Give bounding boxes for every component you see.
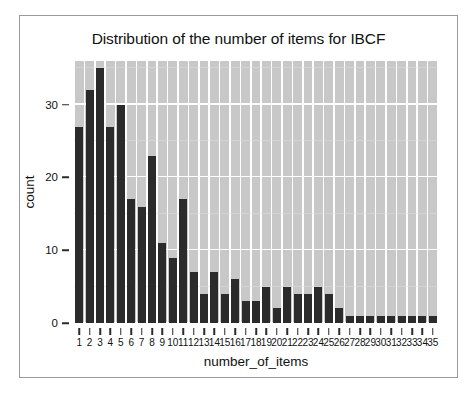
- figure-frame: Distribution of the number of items for …: [19, 15, 458, 378]
- bar: [335, 308, 343, 323]
- x-tick-mark: [401, 328, 403, 335]
- bar: [408, 316, 416, 323]
- x-tick-mark: [255, 328, 257, 335]
- y-tick-mark: [62, 249, 69, 251]
- x-tick-label: 5: [118, 337, 124, 348]
- x-tick-mark: [328, 328, 330, 335]
- x-tick-mark: [432, 328, 434, 335]
- x-tick-mark: [130, 328, 132, 335]
- bar: [252, 301, 260, 323]
- x-tick-mark: [214, 328, 216, 335]
- x-tick-mark: [182, 328, 184, 335]
- y-axis: count 0102030: [20, 16, 74, 377]
- x-tick-mark: [359, 328, 361, 335]
- x-tick-mark: [141, 328, 143, 335]
- x-tick-mark: [78, 328, 80, 335]
- x-axis-title: number_of_items: [74, 354, 438, 369]
- bar: [106, 127, 114, 324]
- bar: [221, 294, 229, 323]
- bar: [314, 287, 322, 323]
- x-tick-mark: [422, 328, 424, 335]
- bar: [242, 301, 250, 323]
- bar: [377, 316, 385, 323]
- y-tick-mark: [62, 177, 69, 179]
- x-axis: number_of_items 123456789101112131415161…: [74, 323, 438, 379]
- x-tick-label: 7: [139, 337, 145, 348]
- bar: [86, 90, 94, 323]
- bar: [148, 156, 156, 323]
- bar: [418, 316, 426, 323]
- x-tick-mark: [224, 328, 226, 335]
- chart-title: Distribution of the number of items for …: [20, 30, 457, 48]
- x-tick-mark: [411, 328, 413, 335]
- bar: [387, 316, 395, 323]
- bar: [169, 258, 177, 324]
- bar: [200, 294, 208, 323]
- x-tick-mark: [234, 328, 236, 335]
- x-tick-mark: [318, 328, 320, 335]
- x-tick-mark: [380, 328, 382, 335]
- x-tick-mark: [203, 328, 205, 335]
- bar: [429, 316, 437, 323]
- x-tick-label: 4: [108, 337, 114, 348]
- bar: [366, 316, 374, 323]
- y-tick-label: 10: [45, 244, 58, 256]
- y-axis-title: count: [22, 175, 37, 208]
- bar: [356, 316, 364, 323]
- bar: [273, 308, 281, 323]
- x-tick-label: 35: [427, 337, 438, 348]
- x-tick-mark: [276, 328, 278, 335]
- x-tick-mark: [99, 328, 101, 335]
- x-tick-mark: [110, 328, 112, 335]
- x-tick-label: 11: [178, 337, 188, 348]
- x-tick-label: 2: [87, 337, 93, 348]
- bar: [304, 294, 312, 323]
- x-tick-mark: [193, 328, 195, 335]
- x-tick-mark: [370, 328, 372, 335]
- bar-series: [74, 61, 438, 323]
- y-tick-label: 20: [45, 171, 58, 183]
- plot-panel: [74, 61, 438, 323]
- x-tick-mark: [162, 328, 164, 335]
- bar: [231, 279, 239, 323]
- bar: [346, 316, 354, 323]
- x-tick-mark: [151, 328, 153, 335]
- x-tick-mark: [120, 328, 122, 335]
- x-tick-mark: [338, 328, 340, 335]
- y-tick-label: 30: [45, 99, 58, 111]
- x-tick-mark: [266, 328, 268, 335]
- x-tick-mark: [245, 328, 247, 335]
- bar: [294, 294, 302, 323]
- x-tick-mark: [89, 328, 91, 335]
- bar: [75, 127, 83, 324]
- x-tick-mark: [286, 328, 288, 335]
- bar: [283, 287, 291, 323]
- bar: [138, 207, 146, 323]
- x-tick-mark: [172, 328, 174, 335]
- x-tick-label: 9: [160, 337, 166, 348]
- bar: [210, 272, 218, 323]
- bar: [325, 294, 333, 323]
- x-tick-label: 3: [97, 337, 103, 348]
- y-tick-label: 0: [52, 317, 58, 329]
- bar: [179, 199, 187, 323]
- x-tick-label: 6: [128, 337, 134, 348]
- bar: [398, 316, 406, 323]
- y-tick-mark: [62, 322, 69, 324]
- x-tick-mark: [349, 328, 351, 335]
- x-tick-label: 1: [76, 337, 82, 348]
- x-tick-mark: [297, 328, 299, 335]
- bar: [96, 68, 104, 323]
- y-tick-mark: [62, 104, 69, 106]
- bar: [262, 287, 270, 323]
- x-tick-mark: [390, 328, 392, 335]
- x-tick-mark: [307, 328, 309, 335]
- bar: [158, 243, 166, 323]
- bar: [127, 199, 135, 323]
- x-tick-label: 10: [167, 337, 178, 348]
- x-tick-label: 8: [149, 337, 155, 348]
- bar: [190, 272, 198, 323]
- bar: [117, 105, 125, 323]
